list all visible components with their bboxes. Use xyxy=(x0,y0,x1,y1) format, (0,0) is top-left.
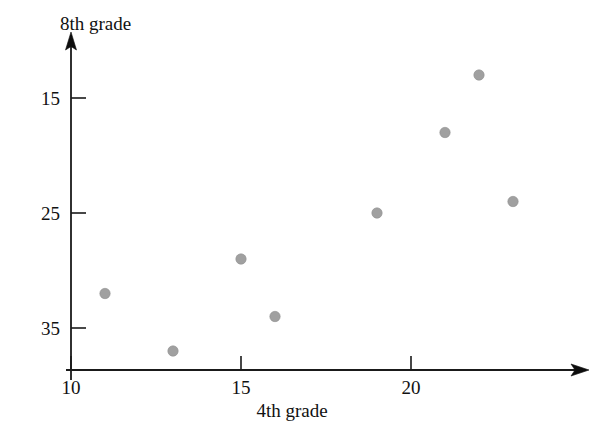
data-point xyxy=(100,288,110,298)
data-point xyxy=(508,196,518,206)
y-tick-label-25: 25 xyxy=(41,203,60,224)
y-tick-label-15: 35 xyxy=(41,318,60,339)
x-tick-label-15: 15 xyxy=(232,377,251,398)
data-point xyxy=(168,346,178,356)
data-point xyxy=(440,127,450,137)
data-point xyxy=(474,70,484,80)
data-points-layer xyxy=(100,70,518,356)
x-tick-label-10: 10 xyxy=(62,377,81,398)
y-axis-title: 8th grade xyxy=(60,13,131,34)
data-point xyxy=(372,208,382,218)
scatter-plot-figure: 15 25 35 10 15 20 8th grade 4th grade xyxy=(0,0,608,436)
y-tick-label-35: 15 xyxy=(41,88,60,109)
data-point xyxy=(270,311,280,321)
x-tick-label-20: 20 xyxy=(402,377,421,398)
x-axis-title: 4th grade xyxy=(256,400,327,421)
plot-canvas: 15 25 35 10 15 20 8th grade 4th grade xyxy=(0,0,608,436)
data-point xyxy=(236,254,246,264)
